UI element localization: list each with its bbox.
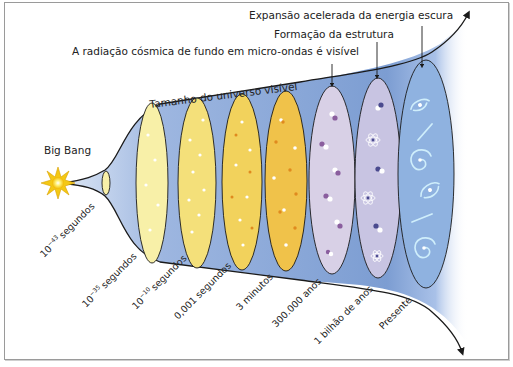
annotation-cmb: A radiação cósmica de fundo em micro-ond…	[72, 45, 359, 57]
epoch-ellipse-2	[136, 103, 168, 263]
epoch-label-6: 300.000 anos	[270, 276, 324, 330]
svg-text:10−35segundos: 10−35segundos	[79, 250, 139, 310]
big-bang-star-icon	[41, 167, 75, 199]
epoch-label-7: 1 bilhão de anos	[312, 283, 375, 346]
expansion-diagram: A radiação cósmica de fundo em micro-ond…	[0, 0, 513, 367]
annotation-structure: Formação da estrutura	[274, 28, 394, 40]
epoch-ellipse-8	[398, 60, 454, 288]
epoch-label-1: 10−43segundos	[37, 200, 97, 260]
epoch-label-2: 10−35segundos	[79, 250, 139, 310]
annotation-dark-energy: Expansão acelerada da energia escura	[249, 9, 453, 21]
svg-text:10−43segundos: 10−43segundos	[37, 200, 97, 260]
epoch-ellipse-3	[178, 98, 216, 268]
epoch-label-4: 0,001 segundos	[172, 260, 233, 321]
epoch-label-5: 3 minutos	[234, 271, 275, 312]
epoch-label-8: Presente	[377, 294, 414, 331]
big-bang-label: Big Bang	[44, 144, 91, 156]
epoch-ellipse-1	[102, 171, 110, 195]
